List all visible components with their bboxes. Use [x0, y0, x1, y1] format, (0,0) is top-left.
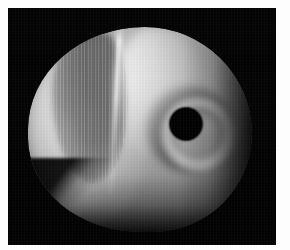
- object-silhouette-clip: [28, 27, 252, 232]
- screenshot-root: [0, 0, 290, 250]
- object-stage: [8, 8, 276, 245]
- render-viewport: [8, 8, 276, 245]
- bottom-left-chamfer: [28, 158, 114, 232]
